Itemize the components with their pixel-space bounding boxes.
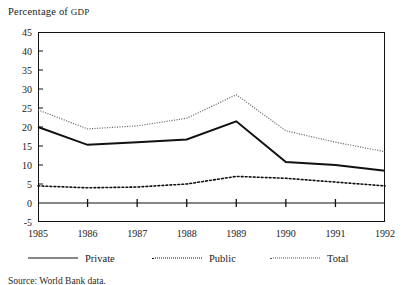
x-tick-label: 1992 — [375, 228, 395, 239]
source-note: Source: World Bank data. — [8, 276, 106, 285]
x-tick-label: 1987 — [127, 228, 147, 239]
x-tick-label: 1989 — [226, 228, 246, 239]
legend-label-public: Public — [209, 253, 236, 264]
legend-item-total: Total — [270, 249, 348, 267]
fine-dotted-line-swatch — [270, 253, 320, 263]
dotted-line-swatch — [152, 253, 202, 263]
legend-label-total: Total — [327, 253, 348, 264]
legend-item-public: Public — [152, 249, 236, 267]
x-tick-label: 1985 — [28, 228, 48, 239]
series-line-public — [38, 176, 385, 187]
series-line-total — [38, 95, 385, 152]
x-tick-label: 1990 — [276, 228, 296, 239]
x-tick-label: 1991 — [325, 228, 345, 239]
x-tick-label: 1986 — [78, 228, 98, 239]
legend-item-private: Private — [28, 249, 115, 267]
series-canvas — [0, 0, 406, 285]
solid-line-swatch — [28, 253, 78, 263]
chart-legend: Private Public Total — [0, 249, 406, 269]
x-tick-label: 1988 — [177, 228, 197, 239]
legend-label-private: Private — [85, 253, 115, 264]
chart-figure: Percentage of GDP 454035302520151050-5 1… — [0, 0, 406, 285]
